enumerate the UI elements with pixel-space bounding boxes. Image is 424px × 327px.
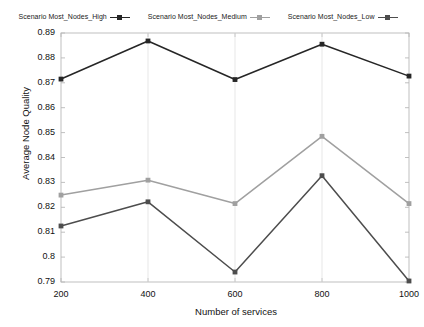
y-tick-label: 0.88 [15,52,55,62]
x-tick-label: 400 [128,289,168,299]
x-axis-title: Number of services [57,306,415,317]
y-tick-label: 0.8 [15,251,55,261]
y-tick-label: 0.79 [15,276,55,286]
x-tick-label: 200 [41,289,81,299]
x-tick-label: 1000 [389,289,424,299]
y-tick-label: 0.89 [15,27,55,37]
y-tick-label: 0.81 [15,226,55,236]
y-axis-title: Average Node Quality [20,64,31,204]
axis-ticks [61,33,409,282]
x-tick-label: 600 [215,289,255,299]
x-tick-label: 800 [302,289,342,299]
